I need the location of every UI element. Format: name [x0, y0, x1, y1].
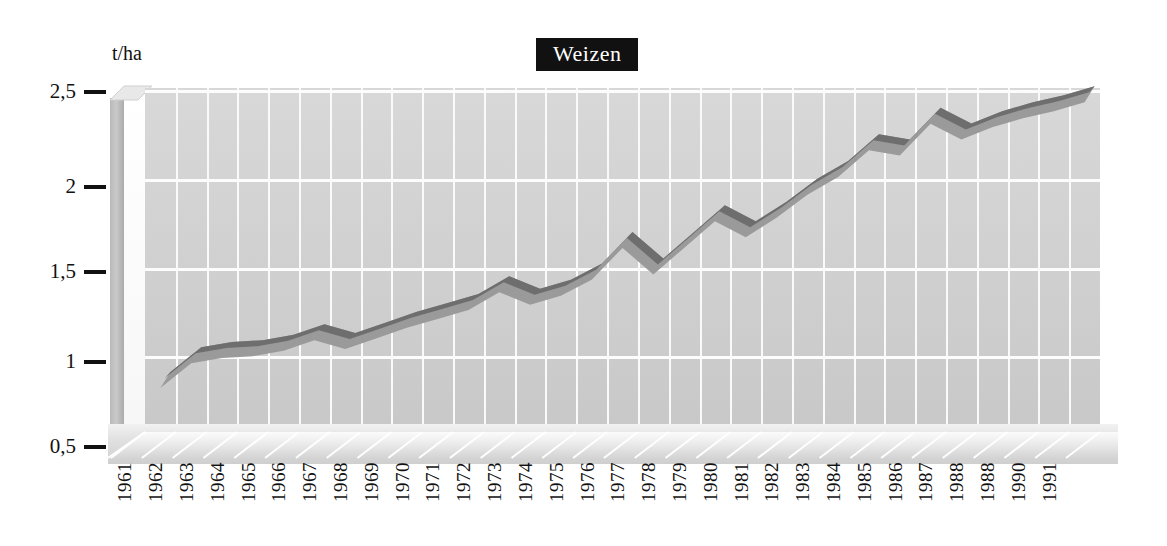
vertical-gridline — [237, 88, 239, 432]
vertical-gridline — [761, 88, 763, 432]
axis-wall-front — [110, 98, 124, 438]
vertical-gridline — [176, 88, 178, 432]
x-tick-label: 1964 — [207, 462, 237, 502]
x-tick-label: 1966 — [268, 462, 298, 502]
y-tick-dash — [84, 185, 106, 189]
x-tick-label: 1970 — [392, 462, 422, 502]
vertical-gridline — [207, 88, 209, 432]
y-tick-label: 2 — [66, 174, 77, 199]
x-tick-label: 1988 — [946, 462, 976, 502]
x-tick-label: 1969 — [361, 462, 391, 502]
plot-floor — [108, 424, 1118, 464]
horizontal-gridline — [145, 90, 1100, 93]
vertical-gridline — [977, 88, 979, 432]
plot-area — [145, 88, 1100, 432]
vertical-gridline — [453, 88, 455, 432]
x-tick-label: 1987 — [915, 462, 945, 502]
y-tick-dash — [84, 360, 106, 364]
vertical-gridline — [1008, 88, 1010, 432]
x-tick-label: 1976 — [577, 462, 607, 502]
x-tick-label: 1971 — [422, 462, 452, 502]
vertical-gridline — [946, 88, 948, 432]
y-tick-label: 1,5 — [50, 259, 76, 284]
horizontal-gridline — [145, 179, 1100, 182]
x-tick-label: 1968 — [330, 462, 360, 502]
vertical-gridline — [854, 88, 856, 432]
x-tick-label: 1988 — [977, 462, 1007, 502]
x-tick-label: 1975 — [546, 462, 576, 502]
x-tick-label: 1972 — [453, 462, 483, 502]
vertical-gridline — [823, 88, 825, 432]
vertical-gridline — [361, 88, 363, 432]
vertical-gridline — [268, 88, 270, 432]
vertical-gridline — [638, 88, 640, 432]
x-tick-label: 1991 — [1039, 462, 1069, 502]
y-tick-dash — [84, 445, 106, 449]
x-tick-label: 1961 — [114, 462, 144, 502]
x-tick-label: 1963 — [176, 462, 206, 502]
x-tick-label: 1983 — [792, 462, 822, 502]
x-tick-label: 1967 — [299, 462, 329, 502]
vertical-gridline — [515, 88, 517, 432]
vertical-gridline — [730, 88, 732, 432]
x-tick-label: 1985 — [854, 462, 884, 502]
vertical-gridline — [484, 88, 486, 432]
y-tick-label: 0,5 — [50, 434, 76, 459]
x-tick-label: 1986 — [885, 462, 915, 502]
x-tick-label: 1965 — [238, 462, 268, 502]
y-axis-ticks: 2,5 2 1,5 1 0,5 — [0, 0, 112, 546]
vertical-gridline — [391, 88, 393, 432]
y-axis-unit-label: t/ha — [112, 42, 142, 65]
x-tick-label: 1973 — [484, 462, 514, 502]
horizontal-gridline — [145, 268, 1100, 271]
vertical-gridline — [422, 88, 424, 432]
x-tick-label: 1979 — [669, 462, 699, 502]
vertical-gridline — [669, 88, 671, 432]
vertical-gridline — [792, 88, 794, 432]
vertical-gridline — [884, 88, 886, 432]
x-tick-label: 1984 — [823, 462, 853, 502]
horizontal-gridline — [145, 356, 1100, 359]
vertical-gridline — [1069, 88, 1071, 432]
vertical-gridline — [915, 88, 917, 432]
vertical-gridline — [545, 88, 547, 432]
x-tick-label: 1981 — [731, 462, 761, 502]
vertical-gridline — [330, 88, 332, 432]
vertical-gridline — [607, 88, 609, 432]
chart-figure: t/ha Weizen 2,5 2 1,5 1 0,5 19 — [0, 0, 1167, 546]
vertical-gridline — [299, 88, 301, 432]
chart-title: Weizen — [536, 38, 638, 71]
y-tick-dash — [84, 90, 106, 94]
x-tick-label: 1982 — [761, 462, 791, 502]
x-tick-label: 1980 — [700, 462, 730, 502]
x-tick-label: 1978 — [638, 462, 668, 502]
vertical-gridline — [1038, 88, 1040, 432]
x-tick-label: 1962 — [145, 462, 175, 502]
y-tick-dash — [84, 270, 106, 274]
vertical-gridline — [576, 88, 578, 432]
vertical-gridline — [700, 88, 702, 432]
axis-wall-inner — [123, 92, 145, 432]
x-tick-label: 1974 — [515, 462, 545, 502]
y-tick-label: 1 — [66, 349, 77, 374]
x-tick-label: 1977 — [607, 462, 637, 502]
y-tick-label: 2,5 — [50, 79, 76, 104]
x-tick-label: 1990 — [1008, 462, 1038, 502]
